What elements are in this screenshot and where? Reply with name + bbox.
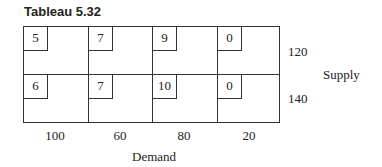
cost-cell: 10 bbox=[153, 75, 177, 99]
demand-label: Demand bbox=[132, 149, 176, 165]
demand-value: 20 bbox=[217, 128, 281, 144]
cost-cell: 0 bbox=[218, 75, 242, 99]
supply-value: 140 bbox=[288, 91, 308, 107]
supply-label: Supply bbox=[323, 67, 360, 83]
demand-value: 60 bbox=[88, 128, 152, 144]
cost-cell: 7 bbox=[89, 27, 113, 51]
cost-cell: 7 bbox=[89, 75, 113, 99]
demand-value: 100 bbox=[23, 128, 87, 144]
transportation-tableau: 5 7 9 0 6 7 10 0 bbox=[23, 26, 280, 123]
cost-cell: 5 bbox=[24, 27, 48, 51]
cost-cell: 6 bbox=[24, 75, 48, 99]
cost-cell: 9 bbox=[153, 27, 177, 51]
demand-value: 80 bbox=[152, 128, 216, 144]
tableau-title: Tableau 5.32 bbox=[24, 4, 101, 19]
supply-value: 120 bbox=[288, 44, 308, 60]
cost-cell: 0 bbox=[218, 27, 242, 51]
